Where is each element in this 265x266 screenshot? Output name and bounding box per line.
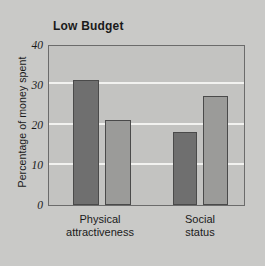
plot-area bbox=[48, 45, 245, 206]
x-tick-label-social-status: Social status bbox=[162, 213, 238, 239]
bar-social-status-light bbox=[203, 96, 228, 205]
chart-title: Low Budget bbox=[53, 19, 124, 33]
bar-chart-figure: Low Budget Percentage of money spent 40 … bbox=[0, 0, 265, 266]
bar-social-status-dark bbox=[173, 132, 197, 205]
y-tick-label-10: 10 bbox=[17, 159, 43, 171]
y-tick-label-20: 20 bbox=[17, 119, 43, 131]
bar-physical-attractiveness-dark bbox=[73, 80, 99, 205]
bar-physical-attractiveness-light bbox=[105, 120, 131, 205]
y-tick-label-40: 40 bbox=[17, 39, 43, 51]
x-tick-label-physical-attractiveness: Physical attractiveness bbox=[58, 213, 142, 239]
y-tick-label-30: 30 bbox=[17, 79, 43, 91]
y-tick-label-0: 0 bbox=[17, 199, 43, 211]
